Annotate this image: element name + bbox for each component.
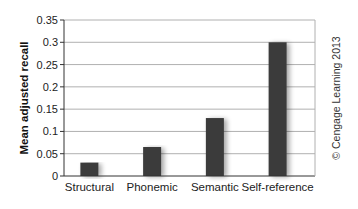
y-axis-ticks: 00.050.10.150.20.250.30.35 bbox=[37, 14, 64, 182]
y-tick-label: 0.35 bbox=[37, 14, 58, 26]
y-tick-label: 0.05 bbox=[37, 148, 58, 160]
x-tick-label: Self-reference bbox=[242, 181, 314, 193]
y-tick-label: 0.3 bbox=[43, 36, 58, 48]
plot-area: 00.050.10.150.20.250.30.35 StructuralPho… bbox=[0, 0, 358, 209]
x-tick-label: Structural bbox=[65, 181, 114, 193]
x-tick-label: Phonemic bbox=[127, 181, 178, 193]
bar-semantic bbox=[206, 118, 224, 176]
y-tick-label: 0.2 bbox=[43, 81, 58, 93]
y-tick-label: 0 bbox=[52, 170, 58, 182]
y-tick-label: 0.25 bbox=[37, 59, 58, 71]
x-tick-label: Semantic bbox=[191, 181, 239, 193]
copyright-credit: © Cengage Learning 2013 bbox=[330, 36, 342, 159]
bar-structural bbox=[80, 163, 98, 176]
y-tick-label: 0.15 bbox=[37, 103, 58, 115]
bar-phonemic bbox=[143, 147, 161, 176]
bar-self-reference bbox=[269, 42, 287, 176]
y-axis-label: Mean adjusted recall bbox=[18, 41, 30, 154]
y-tick-label: 0.1 bbox=[43, 125, 58, 137]
bar-chart: 00.050.10.150.20.250.30.35 StructuralPho… bbox=[0, 0, 358, 209]
x-axis-labels: StructuralPhonemicSemanticSelf-reference bbox=[65, 181, 314, 193]
